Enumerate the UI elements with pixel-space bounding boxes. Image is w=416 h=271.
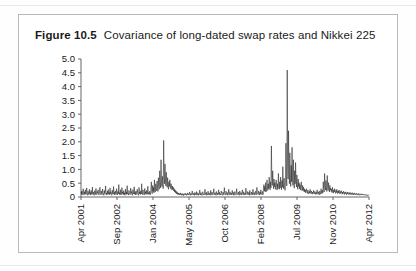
y-tick-label: 3.5	[62, 95, 75, 106]
x-tick-label: Jan 2004	[147, 204, 158, 243]
y-tick-label: 0.5	[62, 178, 75, 189]
y-axis: 5.04.54.03.53.02.52.01.51.00.50	[62, 53, 81, 202]
x-axis: Apr 2001Sep 2002Jan 2004May 2005Oct 2006…	[75, 197, 374, 246]
page-rule-bottom	[0, 265, 416, 266]
y-tick-label: 4.0	[62, 81, 75, 92]
x-tick-label: Feb 2008	[255, 204, 266, 244]
series-line	[81, 70, 369, 196]
y-tick-label: 3.0	[62, 109, 75, 120]
chart-plot-area: 5.04.54.03.53.02.52.01.51.00.50 Apr 2001…	[19, 15, 399, 254]
y-tick-label: 5.0	[62, 53, 75, 64]
covariance-line-chart: 5.04.54.03.53.02.52.01.51.00.50 Apr 2001…	[19, 15, 399, 254]
y-tick-label: 1.5	[62, 150, 75, 161]
x-tick-label: Jul 2009	[291, 204, 302, 240]
x-tick-label: Nov 2010	[327, 204, 338, 245]
x-tick-label: Apr 2012	[363, 204, 374, 243]
figure-box: Figure 10.5Covariance of long-dated swap…	[18, 14, 398, 253]
y-tick-label: 2.0	[62, 136, 75, 147]
page-canvas: Figure 10.5Covariance of long-dated swap…	[0, 0, 416, 271]
x-tick-label: Oct 2006	[219, 204, 230, 243]
y-tick-label: 0	[70, 191, 75, 202]
y-tick-label: 1.0	[62, 164, 75, 175]
y-tick-label: 4.5	[62, 67, 75, 78]
x-tick-label: Apr 2001	[75, 204, 86, 243]
y-tick-label: 2.5	[62, 122, 75, 133]
page-rule-top	[0, 5, 416, 6]
series-group	[81, 70, 369, 196]
x-tick-label: Sep 2002	[111, 204, 122, 245]
x-tick-label: May 2005	[183, 204, 194, 246]
